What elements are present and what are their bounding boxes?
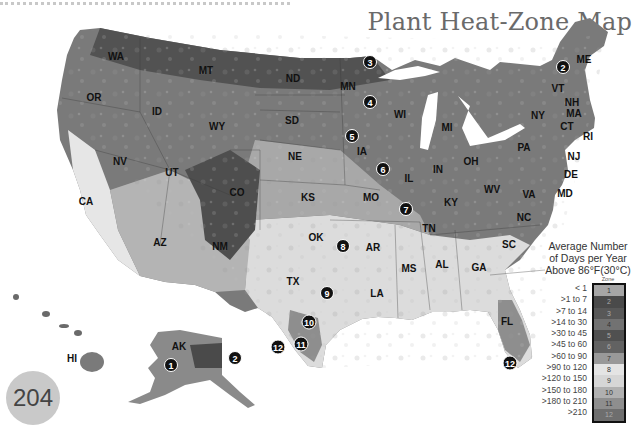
- legend-range-label: >120 to 150: [540, 373, 587, 384]
- state-label-ut: UT: [165, 167, 178, 178]
- svg-text:12: 12: [505, 359, 515, 369]
- state-label-ok: OK: [309, 232, 325, 243]
- page-number-badge: 204: [6, 371, 60, 425]
- alaska-zone2-region: [190, 343, 222, 368]
- legend-title-line2: of Days per Year: [540, 252, 636, 264]
- state-label-in: IN: [433, 164, 443, 175]
- state-label-wa: WA: [108, 51, 124, 62]
- zone-marker-2: 2: [229, 352, 242, 365]
- state-label-mt: MT: [199, 65, 213, 76]
- svg-text:4: 4: [367, 98, 372, 108]
- svg-text:3: 3: [367, 58, 372, 68]
- legend-range-labels: < 1>1 to 7>7 to 14>14 to 30>30 to 45>45 …: [540, 283, 587, 419]
- state-label-id: ID: [152, 106, 162, 117]
- state-label-mn: MN: [340, 81, 356, 92]
- state-label-nv: NV: [113, 156, 127, 167]
- svg-text:1: 1: [168, 361, 173, 371]
- state-label-nc: NC: [517, 212, 531, 223]
- svg-text:6: 6: [380, 165, 385, 175]
- state-label-ri: RI: [583, 131, 593, 142]
- legend-zone-cell: 4: [594, 319, 624, 330]
- state-label-tn: TN: [422, 223, 435, 234]
- state-label-fl: FL: [501, 316, 513, 327]
- svg-text:12: 12: [273, 343, 283, 353]
- state-label-ca: CA: [79, 196, 93, 207]
- state-label-ak: AK: [172, 341, 187, 352]
- state-label-la: LA: [370, 288, 383, 299]
- state-label-wy: WY: [209, 121, 225, 132]
- state-label-ct: CT: [560, 121, 573, 132]
- zone-marker-5: 5: [346, 130, 359, 143]
- legend-range-label: >30 to 45: [540, 328, 587, 339]
- svg-text:10: 10: [304, 318, 314, 328]
- state-label-ga: GA: [472, 262, 487, 273]
- legend-range-label: >60 to 90: [540, 351, 587, 362]
- legend-title-line3: Above 86°F(30°C): [540, 264, 636, 276]
- svg-text:8: 8: [340, 242, 345, 252]
- zone-marker-12: 12: [271, 340, 285, 354]
- state-label-ms: MS: [402, 263, 417, 274]
- state-label-sd: SD: [285, 115, 299, 126]
- legend-zone-header: Zone: [590, 276, 626, 282]
- state-label-oh: OH: [464, 156, 479, 167]
- legend-range-label: >14 to 30: [540, 317, 587, 328]
- legend-title-line1: Average Number: [540, 240, 636, 252]
- svg-text:11: 11: [296, 340, 306, 350]
- zone-marker-10: 10: [302, 315, 316, 329]
- state-label-tx: TX: [287, 276, 300, 287]
- zone-marker-3: 3: [364, 56, 377, 69]
- legend-range-label: >150 to 180: [540, 385, 587, 396]
- legend-range-label: >90 to 120: [540, 362, 587, 373]
- state-label-az: AZ: [153, 237, 166, 248]
- state-label-me: ME: [577, 54, 592, 65]
- zone-marker-6: 6: [377, 163, 390, 176]
- legend-zone-cell: 10: [594, 387, 624, 398]
- state-label-or: OR: [87, 92, 103, 103]
- state-label-wi: WI: [394, 109, 406, 120]
- svg-text:9: 9: [324, 289, 329, 299]
- state-label-al: AL: [435, 259, 448, 270]
- zone-marker-11: 11: [294, 337, 308, 351]
- state-label-co: CO: [230, 187, 245, 198]
- state-label-nj: NJ: [568, 151, 581, 162]
- zone-marker-9: 9: [321, 287, 334, 300]
- legend-range-label: >1 to 7: [540, 294, 587, 305]
- hawaii-shape: [13, 294, 104, 372]
- svg-text:7: 7: [403, 205, 408, 215]
- state-label-va: VA: [522, 189, 535, 200]
- state-label-ia: IA: [357, 146, 367, 157]
- state-label-de: DE: [564, 169, 578, 180]
- state-label-hi: HI: [67, 353, 77, 364]
- legend-zone-cell: 9: [594, 375, 624, 386]
- zone-marker-2: 2: [557, 61, 570, 74]
- legend-zone-cell: 7: [594, 353, 624, 364]
- legend-zone-cell: 11: [594, 398, 624, 409]
- zone-marker-8: 8: [337, 240, 350, 253]
- zone-marker-1: 1: [165, 359, 178, 372]
- state-label-sc: SC: [502, 239, 516, 250]
- state-label-mo: MO: [363, 192, 379, 203]
- state-label-nm: NM: [212, 241, 228, 252]
- legend-range-label: < 1: [540, 283, 587, 294]
- legend-zone-cell: 2: [594, 296, 624, 307]
- legend-range-label: >210: [540, 407, 587, 418]
- state-label-ks: KS: [301, 192, 315, 203]
- state-label-ar: AR: [366, 242, 381, 253]
- state-label-il: IL: [405, 173, 414, 184]
- legend-zone-cell: 12: [594, 409, 624, 420]
- alaska-shape: [128, 330, 255, 408]
- legend-color-bar: 123456789101112: [592, 283, 626, 423]
- legend-zone-cell: 1: [594, 285, 624, 296]
- legend-range-label: >180 to 210: [540, 396, 587, 407]
- state-label-ny: NY: [531, 110, 545, 121]
- legend-zone-cell: 5: [594, 330, 624, 341]
- legend-zone-cell: 8: [594, 364, 624, 375]
- zone-marker-4: 4: [364, 96, 377, 109]
- state-label-nd: ND: [286, 73, 300, 84]
- state-label-mi: MI: [441, 122, 452, 133]
- legend-zone-cell: 3: [594, 308, 624, 319]
- state-label-ky: KY: [444, 197, 458, 208]
- legend-title: Average Number of Days per Year Above 86…: [540, 240, 636, 276]
- zone-marker-12: 12: [503, 356, 517, 370]
- state-label-md: MD: [557, 188, 573, 199]
